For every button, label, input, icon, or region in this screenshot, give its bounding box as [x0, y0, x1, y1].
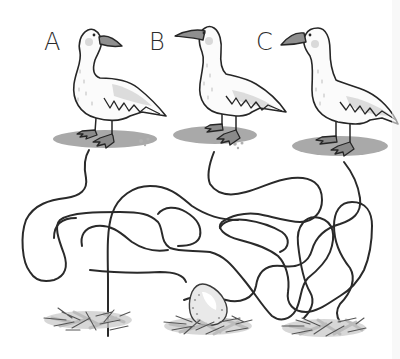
eye — [93, 34, 96, 37]
goose-label-a: A — [44, 28, 60, 56]
egg[interactable] — [189, 284, 227, 325]
goose-c[interactable] — [281, 28, 398, 156]
nest-middle[interactable] — [164, 284, 252, 335]
maze-path-b[interactable] — [208, 152, 372, 312]
cheek — [311, 40, 319, 48]
nest-right[interactable] — [282, 318, 366, 337]
nest-left[interactable] — [44, 308, 132, 330]
goose-maze-illustration: A B C — [0, 0, 400, 359]
cheek — [205, 37, 213, 45]
eye — [203, 32, 206, 35]
maze-path-a[interactable] — [23, 150, 334, 319]
goose-label-b: B — [149, 28, 165, 56]
page-edge — [392, 0, 400, 359]
foot — [205, 124, 223, 132]
goose-label-c: C — [256, 28, 273, 56]
cheek — [85, 38, 93, 46]
beak — [175, 30, 205, 40]
eye — [309, 34, 312, 37]
beak — [99, 36, 122, 46]
beak — [281, 33, 306, 45]
